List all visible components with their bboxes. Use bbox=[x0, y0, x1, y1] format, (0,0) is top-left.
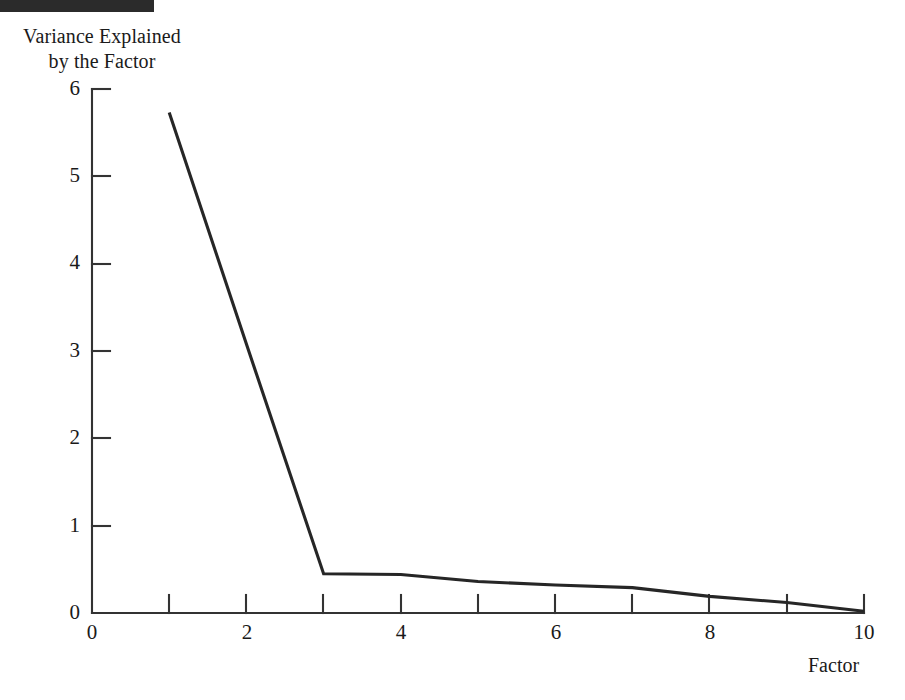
scree-plot: 6 5 4 3 2 1 0 0 2 4 6 8 10 Factor bbox=[0, 0, 905, 700]
y-tick-label-4: 4 bbox=[40, 252, 80, 273]
y-tick-label-1: 1 bbox=[40, 515, 80, 536]
y-axis-ticks bbox=[92, 89, 110, 526]
y-tick-label-0: 0 bbox=[40, 602, 80, 623]
x-tick-label-0: 0 bbox=[70, 622, 114, 643]
y-tick-label-6: 6 bbox=[40, 78, 80, 99]
x-tick-label-6: 6 bbox=[534, 622, 578, 643]
x-tick-label-8: 8 bbox=[688, 622, 732, 643]
x-axis-caption: Factor bbox=[808, 654, 859, 676]
y-tick-label-3: 3 bbox=[40, 340, 80, 361]
figure-canvas: Variance Explained by the Factor bbox=[0, 0, 905, 700]
y-tick-label-2: 2 bbox=[40, 427, 80, 448]
y-tick-label-5: 5 bbox=[40, 165, 80, 186]
x-tick-label-4: 4 bbox=[379, 622, 423, 643]
axes bbox=[92, 89, 864, 613]
x-axis-ticks bbox=[169, 595, 864, 613]
scree-plot-svg bbox=[0, 0, 905, 700]
scree-line-series bbox=[169, 113, 864, 612]
x-tick-label-2: 2 bbox=[225, 622, 269, 643]
x-tick-label-10: 10 bbox=[842, 622, 886, 643]
